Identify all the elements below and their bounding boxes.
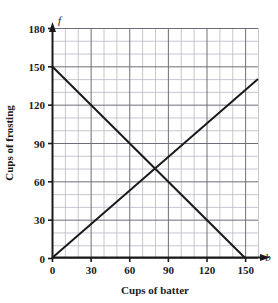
y-axis-tick-label: 150 xyxy=(29,61,46,73)
graph-figure: 03060901201500306090120150180 f b Cups o… xyxy=(0,0,278,303)
y-axis-tick-label: 180 xyxy=(29,23,46,35)
y-axis-tick-label: 30 xyxy=(34,214,46,226)
y-axis-tick-label: 60 xyxy=(34,176,46,188)
x-axis-tick-label: 90 xyxy=(163,264,175,276)
x-axis-title: Cups of batter xyxy=(121,284,189,296)
x-axis-tick-label: 30 xyxy=(86,264,98,276)
x-axis-tick-label: 60 xyxy=(124,264,136,276)
y-axis-tick-label: 90 xyxy=(34,138,46,150)
coordinate-plane-chart: 03060901201500306090120150180 f b Cups o… xyxy=(0,0,278,303)
x-axis-variable-label: b xyxy=(265,251,271,263)
x-axis-tick-label: 150 xyxy=(237,264,254,276)
x-axis-tick-label: 120 xyxy=(199,264,216,276)
y-axis-tick-label: 120 xyxy=(29,99,46,111)
y-axis-title: Cups of frosting xyxy=(3,105,15,181)
y-axis-tick-label: 0 xyxy=(40,253,46,265)
x-axis-tick-label: 0 xyxy=(50,264,56,276)
